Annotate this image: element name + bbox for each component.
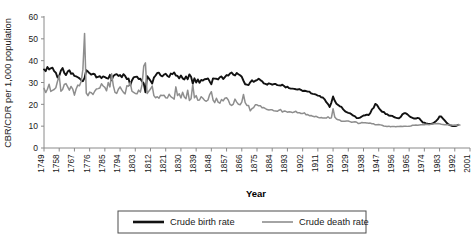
legend-label-crude-birth-rate: Crude birth rate	[170, 217, 235, 227]
chart-container: 0102030405060 17491758176717761785179418…	[0, 0, 476, 245]
x-tick-label: 1875	[250, 154, 259, 173]
y-tick-label: 50	[29, 34, 39, 44]
x-tick-label: 1974	[417, 154, 426, 173]
x-tick-label: 1758	[52, 154, 61, 173]
chart-legend: Crude birth rateCrude death rate	[118, 211, 369, 233]
x-tick-label: 1956	[387, 154, 396, 173]
legend-label-crude-death-rate: Crude death rate	[299, 217, 369, 227]
x-tick-label: 1938	[357, 154, 366, 173]
x-tick-label: 2001	[463, 154, 472, 173]
x-axis-title-text: Year	[246, 188, 266, 199]
x-tick-label: 1920	[326, 154, 335, 173]
x-tick-label: 1767	[67, 154, 76, 173]
x-tick-label: 1992	[448, 154, 457, 173]
x-tick-label: 1821	[159, 154, 168, 173]
line-chart: 0102030405060 17491758176717761785179418…	[0, 0, 476, 245]
x-tick-label: 1830	[174, 154, 183, 173]
x-tick-label: 1884	[265, 154, 274, 173]
x-tick-label: 1983	[433, 154, 442, 173]
y-tick-label: 10	[29, 121, 39, 131]
x-tick-label: 1839	[189, 154, 198, 173]
y-axis-title: CBR/CDR per 1,000 population	[3, 18, 13, 148]
x-axis-title: Year	[246, 188, 266, 199]
x-tick-label: 1911	[311, 154, 320, 172]
x-tick-label: 1776	[83, 154, 92, 173]
x-tick-label: 1848	[204, 154, 213, 173]
x-tick-label: 1929	[341, 154, 350, 173]
plot-background	[0, 0, 476, 245]
y-tick-label: 0	[33, 143, 38, 153]
x-tick-label: 1893	[280, 154, 289, 173]
x-tick-label: 1749	[37, 154, 46, 173]
x-tick-label: 1947	[372, 154, 381, 173]
x-tick-label: 1965	[402, 154, 411, 173]
x-tick-label: 1866	[235, 154, 244, 173]
x-tick-label: 1794	[113, 154, 122, 173]
y-tick-label: 40	[29, 56, 39, 66]
x-tick-label: 1803	[128, 154, 137, 173]
y-tick-label: 20	[29, 100, 39, 110]
y-tick-label: 60	[29, 12, 39, 22]
y-tick-label: 30	[29, 78, 39, 88]
y-axis-title-text: CBR/CDR per 1,000 population	[3, 18, 13, 148]
x-tick-label: 1857	[220, 154, 229, 173]
x-tick-label: 1812	[144, 154, 153, 173]
x-tick-label: 1785	[98, 154, 107, 173]
x-tick-label: 1902	[296, 154, 305, 173]
